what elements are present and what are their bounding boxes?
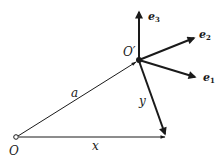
origin-prime-point — [136, 57, 142, 63]
vector-y-label: y — [138, 94, 146, 108]
origin-point — [14, 135, 19, 140]
origin-label: O — [9, 144, 19, 158]
vector-diagram: O O′ a x y e3 e2 e1 — [0, 0, 223, 160]
vector-e2-label: e2 — [199, 28, 211, 42]
origin-prime-label: O′ — [123, 45, 136, 59]
vector-a-label: a — [71, 86, 78, 100]
vector-x-label: x — [92, 139, 99, 153]
vector-e1-label: e1 — [203, 71, 215, 85]
vector-e1-arrow — [139, 60, 195, 77]
vector-e3-label: e3 — [148, 10, 160, 24]
vector-e2-arrow — [139, 38, 194, 60]
